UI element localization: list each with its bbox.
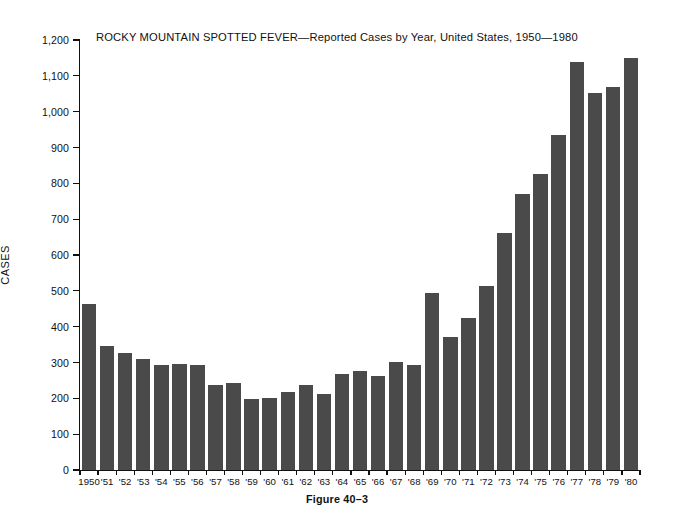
x-tick-label: 1950 <box>78 476 100 487</box>
x-tick-mark <box>386 470 387 475</box>
y-tick-label: 0 <box>3 464 69 476</box>
x-tick-mark <box>441 470 442 475</box>
x-tick-label: '62 <box>299 476 312 487</box>
bar <box>136 359 150 470</box>
y-tick-mark <box>73 290 79 291</box>
x-tick-mark <box>423 470 424 475</box>
x-tick-label: '73 <box>498 476 511 487</box>
plot-area <box>80 40 640 470</box>
x-tick-label: '78 <box>589 476 602 487</box>
x-tick-mark <box>152 470 153 475</box>
y-tick-label: 300 <box>3 357 69 369</box>
x-tick-mark <box>79 470 80 475</box>
x-tick-mark <box>405 470 406 475</box>
x-tick-label: '57 <box>209 476 222 487</box>
x-tick-mark <box>188 470 189 475</box>
x-tick-mark <box>332 470 333 475</box>
bar <box>100 346 114 470</box>
bar <box>443 337 457 470</box>
x-tick-label: '70 <box>444 476 457 487</box>
bar <box>479 286 493 470</box>
bar <box>281 392 295 470</box>
x-tick-mark <box>585 470 586 475</box>
x-tick-mark <box>116 470 117 475</box>
x-tick-mark <box>206 470 207 475</box>
x-tick-mark <box>224 470 225 475</box>
bar <box>335 374 349 470</box>
y-tick-label: 1,000 <box>3 106 69 118</box>
y-tick-mark <box>73 254 79 255</box>
x-tick-label: '59 <box>245 476 258 487</box>
y-tick-mark <box>73 147 79 148</box>
y-tick-label: 1,100 <box>3 70 69 82</box>
bar <box>154 365 168 470</box>
x-tick-mark <box>477 470 478 475</box>
y-tick-label: 700 <box>3 213 69 225</box>
y-tick-mark <box>73 75 79 76</box>
x-tick-mark <box>296 470 297 475</box>
x-tick-mark <box>459 470 460 475</box>
x-tick-label: '72 <box>480 476 493 487</box>
x-tick-mark <box>513 470 514 475</box>
bar <box>172 364 186 470</box>
bar <box>624 58 638 470</box>
bar <box>226 383 240 470</box>
x-tick-mark <box>549 470 550 475</box>
bar <box>533 174 547 470</box>
x-tick-mark <box>639 470 640 475</box>
x-tick-label: '58 <box>227 476 240 487</box>
bar <box>606 87 620 470</box>
x-tick-mark <box>495 470 496 475</box>
bar <box>244 399 258 470</box>
x-tick-mark <box>170 470 171 475</box>
x-tick-label: '77 <box>570 476 583 487</box>
x-tick-label: '74 <box>516 476 529 487</box>
x-tick-mark <box>621 470 622 475</box>
x-tick-label: '75 <box>534 476 547 487</box>
y-tick-mark <box>73 434 79 435</box>
y-tick-mark <box>73 183 79 184</box>
y-tick-label: 600 <box>3 249 69 261</box>
x-tick-label: '66 <box>372 476 385 487</box>
x-tick-label: '52 <box>119 476 132 487</box>
y-tick-label: 900 <box>3 142 69 154</box>
x-tick-mark <box>567 470 568 475</box>
x-tick-label: '55 <box>173 476 186 487</box>
x-tick-label: '68 <box>408 476 421 487</box>
x-tick-label: '65 <box>354 476 367 487</box>
bar <box>190 365 204 470</box>
y-tick-mark <box>73 111 79 112</box>
bar <box>389 362 403 470</box>
x-tick-label: '56 <box>191 476 204 487</box>
bar <box>588 93 602 470</box>
bar <box>425 293 439 470</box>
bar <box>299 385 313 470</box>
bar <box>317 394 331 470</box>
bar <box>118 353 132 470</box>
x-tick-label: '51 <box>101 476 114 487</box>
y-tick-label: 100 <box>3 428 69 440</box>
bar <box>208 385 222 470</box>
x-tick-mark <box>350 470 351 475</box>
bar <box>407 365 421 470</box>
x-tick-label: '53 <box>137 476 150 487</box>
y-tick-mark <box>73 469 79 470</box>
bar <box>497 233 511 470</box>
bar <box>371 376 385 470</box>
bar <box>570 62 584 470</box>
x-tick-label: '63 <box>318 476 331 487</box>
x-tick-label: '71 <box>462 476 475 487</box>
x-tick-label: '60 <box>263 476 276 487</box>
x-tick-mark <box>603 470 604 475</box>
x-tick-label: '79 <box>607 476 620 487</box>
bar <box>461 318 475 470</box>
x-tick-mark <box>314 470 315 475</box>
x-tick-mark <box>97 470 98 475</box>
bar <box>82 304 96 470</box>
x-tick-mark <box>242 470 243 475</box>
figure-rocky-mountain-spotted-fever: ROCKY MOUNTAIN SPOTTED FEVER—Reported Ca… <box>0 0 674 530</box>
y-tick-label: 800 <box>3 177 69 189</box>
y-tick-mark <box>73 219 79 220</box>
x-tick-label: '69 <box>426 476 439 487</box>
x-tick-label: '54 <box>155 476 168 487</box>
